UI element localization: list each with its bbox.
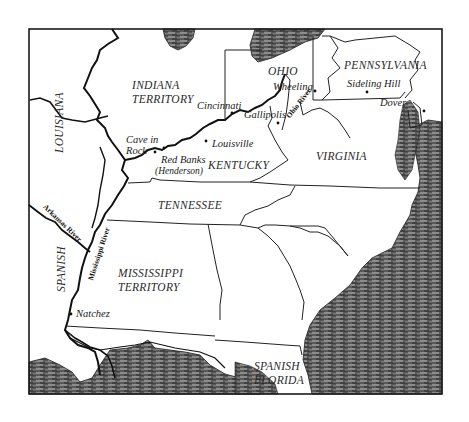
dover-label: Dover <box>380 98 406 109</box>
cave-in-rock-label: Cave in Rock <box>126 135 158 156</box>
cincinnati-marker <box>231 112 234 115</box>
redbanks-line-2: (Henderson) <box>155 167 206 177</box>
sideling-hill-marker <box>366 91 369 94</box>
louisville-label: Louisville <box>212 139 253 150</box>
fl-line-2: FLORIDA <box>254 375 304 387</box>
cave-line-1: Cave in <box>126 135 158 146</box>
ms-line-1: MISSISSIPPI <box>118 268 183 280</box>
ohio-label: OHIO <box>268 66 298 78</box>
cincinnati-label: Cincinnati <box>197 101 241 112</box>
ms-line-2: TERRITORY <box>118 282 183 294</box>
dover-marker <box>423 110 426 113</box>
louisville-marker <box>205 140 208 143</box>
kentucky-label: KENTUCKY <box>208 160 269 172</box>
sideling-hill-label: Sideling Hill <box>347 79 400 90</box>
indiana-line-2: TERRITORY <box>132 94 194 106</box>
louisiana-label: LOUISIANA <box>54 92 66 153</box>
gallipolis-marker <box>277 122 280 125</box>
natchez-label: Natchez <box>76 309 110 320</box>
spanish-florida-label: SPANISH FLORIDA <box>254 361 304 386</box>
pennsylvania-label: PENNSYLVANIA <box>344 60 427 72</box>
wheeling-marker <box>314 90 317 93</box>
cave-line-2: Rock <box>126 146 158 157</box>
mississippi-territory-label: MISSISSIPPI TERRITORY <box>118 268 183 293</box>
gallipolis-label: Gallipolis <box>244 110 286 121</box>
red-banks-label: Red Banks (Henderson) <box>161 155 206 176</box>
indiana-territory-label: INDIANA TERRITORY <box>132 80 194 105</box>
natchez-marker <box>70 313 73 316</box>
spanish-label: SPANISH <box>56 246 68 292</box>
indiana-line-1: INDIANA <box>132 80 194 92</box>
redbanks-line-1: Red Banks <box>161 155 206 166</box>
tennessee-label: TENNESSEE <box>158 200 222 212</box>
red-banks-marker <box>163 147 166 150</box>
fl-line-1: SPANISH <box>254 361 304 373</box>
virginia-label: VIRGINIA <box>316 151 367 163</box>
